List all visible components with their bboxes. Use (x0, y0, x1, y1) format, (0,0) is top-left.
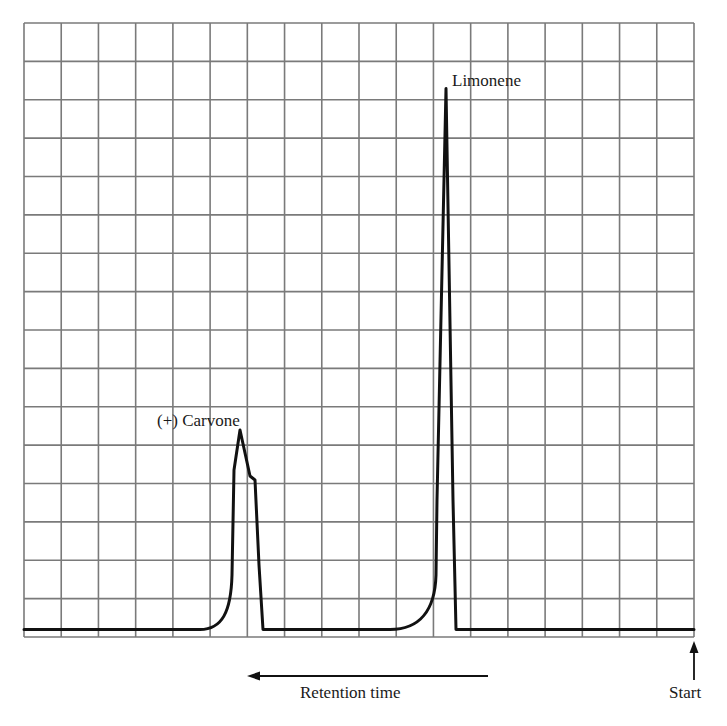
start-label: Start (669, 684, 701, 701)
peak-label-limonene: Limonene (452, 72, 521, 89)
retention-time-arrow (247, 672, 488, 681)
chart-grid (24, 23, 694, 637)
x-axis-label: Retention time (300, 684, 401, 701)
peak-label-carvone: (+) Carvone (157, 412, 240, 429)
start-arrow-icon (690, 641, 699, 680)
chromatogram-chart (0, 0, 727, 726)
